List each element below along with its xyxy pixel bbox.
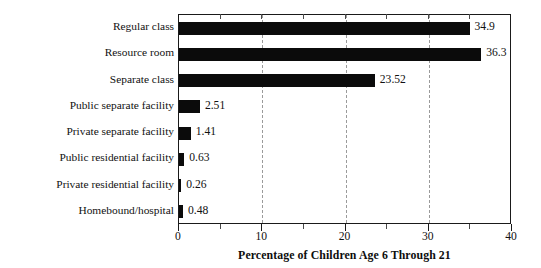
x-axis-title: Percentage of Children Age 6 Through 21 — [178, 248, 511, 263]
x-axis-tick-label: 10 — [255, 231, 267, 243]
x-axis-minor-tick — [220, 224, 221, 229]
bar-chart: Regular classResource roomSeparate class… — [0, 0, 541, 268]
category-label: Resource room — [2, 47, 174, 58]
category-label: Private residential facility — [2, 179, 174, 190]
x-axis-minor-tick — [386, 224, 387, 229]
category-label: Regular class — [2, 21, 174, 32]
category-label-column: Regular classResource roomSeparate class… — [0, 14, 174, 224]
x-axis-tick-label: 30 — [422, 231, 434, 243]
value-label-layer: 34.936.323.522.511.410.630.260.48 — [178, 14, 541, 224]
x-axis-minor-tick — [469, 224, 470, 229]
value-label: 0.63 — [189, 152, 209, 164]
category-label: Homebound/hospital — [2, 205, 174, 216]
value-label: 23.52 — [380, 74, 406, 86]
x-axis-minor-tick — [303, 224, 304, 229]
x-axis-tick-label: 0 — [175, 231, 181, 243]
category-label: Public residential facility — [2, 152, 174, 163]
x-axis-tick-label: 40 — [505, 231, 517, 243]
value-label: 1.41 — [196, 126, 216, 138]
x-axis-tick-label-layer: 010203040 — [178, 231, 511, 247]
x-axis-tick-label: 20 — [339, 231, 351, 243]
value-label: 34.9 — [475, 21, 495, 33]
value-label: 2.51 — [205, 100, 225, 112]
category-label: Separate class — [2, 74, 174, 85]
value-label: 0.48 — [188, 205, 208, 217]
value-label: 0.26 — [186, 179, 206, 191]
category-label: Public separate facility — [2, 100, 174, 111]
category-label: Private separate facility — [2, 126, 174, 137]
value-label: 36.3 — [486, 47, 506, 59]
